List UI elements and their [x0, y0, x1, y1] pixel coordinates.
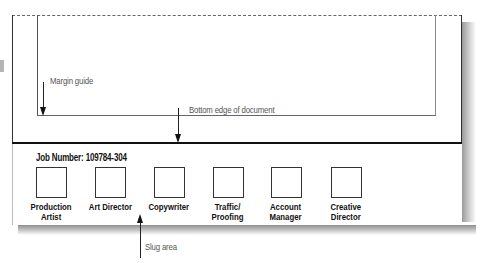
signoff-box [95, 167, 126, 198]
slug-area-label: Slug area [145, 241, 177, 252]
signoff-creative-director: Creative Director [311, 167, 381, 222]
page-shadow-right [462, 22, 476, 222]
signoff-label: Art Director [88, 202, 131, 212]
margin-guide-arrow-shaft [43, 82, 44, 108]
signoff-label-line2: Artist [30, 212, 71, 222]
margin-guide-box [37, 15, 436, 116]
arrow-down-icon [40, 107, 46, 116]
page-edge-shadow-left [0, 60, 4, 72]
margin-guide-label: Margin guide [50, 75, 93, 86]
bottom-edge-arrow-shaft [178, 108, 179, 135]
signoff-box [213, 167, 244, 198]
document-bottom-edge-line [12, 142, 462, 144]
slug-area-arrow-shaft [140, 222, 141, 258]
signoff-label-line1: Art Director [88, 202, 131, 212]
signoff-box [154, 167, 185, 198]
signoff-label: Account Manager [270, 202, 302, 222]
bottom-edge-label: Bottom edge of document [189, 104, 274, 115]
page-right-edge [461, 15, 462, 144]
signoff-box [271, 167, 302, 198]
job-number: Job Number: 109784-304 [36, 152, 127, 163]
signoff-box [331, 167, 362, 198]
signoff-label-line2: Director [331, 212, 362, 222]
signoff-box [36, 167, 67, 198]
signoff-label: Production Artist [30, 202, 71, 222]
signoff-label-line1: Copywriter [149, 202, 190, 212]
signoff-label: Copywriter [149, 202, 190, 212]
signoff-label: Creative Director [331, 202, 362, 222]
page-shadow-bottom [18, 225, 476, 235]
signoff-label-line2: Manager [270, 212, 302, 222]
signoff-label-line2: Proofing [212, 212, 244, 222]
slug-left-edge [12, 144, 13, 225]
signoff-label: Traffic/ Proofing [212, 202, 244, 222]
